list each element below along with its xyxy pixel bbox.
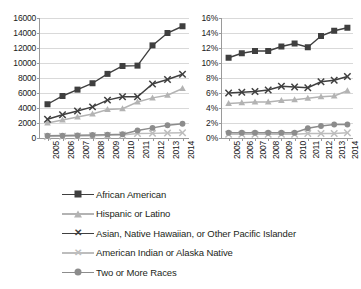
data-point [45, 133, 51, 139]
data-point [239, 50, 245, 56]
y-axis-tick [219, 138, 222, 139]
y-axis-tick-label: 10000 [13, 59, 36, 68]
data-point [318, 33, 324, 39]
data-point [179, 85, 186, 91]
y-axis-tick-label: 14% [202, 29, 218, 38]
y-axis-tick-label: 12000 [13, 44, 36, 53]
chart-legend: African AmericanHispanic or Latino✕Asian… [0, 186, 361, 289]
x-axis-tick-label: 2013 [171, 141, 181, 159]
y-axis-tick-label: 16% [202, 14, 218, 23]
y-axis-tick-label: 14000 [13, 29, 36, 38]
legend-marker-key [62, 188, 94, 200]
x-axis-labels-counts: 2005200620072008200920102011201220132014 [39, 141, 189, 183]
data-point [105, 71, 111, 77]
data-point [265, 130, 271, 136]
data-point [305, 125, 311, 131]
y-axis-tick [37, 138, 40, 139]
data-point [344, 87, 351, 93]
chart-panel-counts: 0200040006000800010000120001400016000 20… [0, 0, 196, 185]
x-axis-labels-percent: 2005200620072008200920102011201220132014 [221, 141, 353, 183]
x-axis-tick-label: 2010 [298, 141, 308, 159]
plot-area-percent [221, 18, 353, 138]
x-axis-tick-label: 2006 [66, 141, 76, 159]
circle-marker-icon [75, 269, 82, 276]
data-point [344, 25, 350, 31]
series-african-american [226, 25, 351, 61]
data-point [135, 128, 141, 134]
series-line [229, 77, 348, 94]
series-asian-native-hawaiian-or-other-pacific-islander [225, 73, 350, 96]
data-point [75, 132, 81, 138]
x-marker-icon: ✕ [74, 248, 82, 258]
data-point [120, 63, 126, 69]
legend-item[interactable]: ✕Asian, Native Hawaiian, or Other Pacifi… [62, 225, 296, 241]
x-axis-tick-label: 2011 [141, 141, 151, 158]
legend-marker-key: ✕ [62, 247, 94, 259]
x-axis-tick-label: 2005 [232, 141, 242, 159]
data-point [105, 132, 111, 138]
x-axis-tick-label: 2007 [81, 141, 91, 159]
y-axis-tick-label: 12% [202, 44, 218, 53]
data-point [165, 122, 171, 128]
data-point [90, 80, 96, 86]
x-axis-tick-label: 2008 [271, 141, 281, 159]
y-axis-tick-label: 6% [206, 89, 218, 98]
x-axis-tick-label: 2008 [96, 141, 106, 159]
legend-item-label: Hispanic or Latino [96, 208, 170, 219]
legend-marker-key [62, 208, 94, 220]
legend-item[interactable]: African American [62, 186, 166, 202]
series-line [229, 28, 348, 58]
x-axis-tick-label: 2009 [284, 141, 294, 159]
legend-item-label: American Indian or Alaska Native [96, 247, 233, 258]
legend-marker-key [62, 266, 94, 278]
y-axis-tick-label: 4% [206, 104, 218, 113]
data-point [331, 28, 337, 34]
y-axis-tick-label: 0% [206, 134, 218, 143]
x-axis-tick-label: 2009 [111, 141, 121, 159]
data-point [292, 41, 298, 47]
x-axis-tick-label: 2005 [51, 141, 61, 159]
x-marker-icon: ✕ [74, 228, 82, 238]
x-axis-tick-label: 2006 [245, 141, 255, 159]
legend-item[interactable]: Two or More Races [62, 264, 177, 280]
series-line [229, 125, 348, 133]
plot-area-counts [39, 18, 189, 138]
data-point [165, 30, 171, 36]
series-layer [222, 18, 354, 138]
x-axis-tick-label: 2013 [337, 141, 347, 159]
series-asian-native-hawaiian-or-other-pacific-islander [44, 71, 185, 122]
y-axis-labels-percent: 0%2%4%6%8%10%12%14%16% [192, 0, 218, 185]
series-hispanic-or-latino [44, 85, 186, 126]
data-point [120, 131, 126, 137]
legend-item-label: Asian, Native Hawaiian, or Other Pacific… [96, 228, 296, 239]
series-line [48, 124, 183, 136]
data-point [345, 122, 351, 128]
data-point [226, 130, 232, 136]
data-point [278, 44, 284, 50]
x-axis-tick-label: 2007 [258, 141, 268, 159]
y-axis-tick-label: 10% [202, 59, 218, 68]
legend-item-label: African American [96, 189, 166, 200]
y-axis-labels-counts: 0200040006000800010000120001400016000 [0, 0, 36, 185]
y-axis-tick-label: 2% [206, 119, 218, 128]
data-point [75, 87, 81, 93]
y-axis-tick-label: 8% [206, 74, 218, 83]
data-point [180, 23, 186, 29]
data-point [60, 93, 66, 99]
square-marker-icon [75, 191, 82, 198]
legend-item[interactable]: ✕American Indian or Alaska Native [62, 245, 233, 261]
data-point [265, 48, 271, 54]
data-point [45, 101, 51, 107]
legend-item-label: Two or More Races [96, 267, 177, 278]
data-point [239, 130, 245, 136]
x-axis-tick-label: 2014 [350, 141, 360, 159]
legend-item[interactable]: Hispanic or Latino [62, 206, 170, 222]
chart-panel-percent: 0%2%4%6%8%10%12%14%16% 20052006200720082… [192, 0, 361, 185]
data-point [180, 121, 186, 127]
x-axis-tick-label: 2012 [156, 141, 166, 159]
dual-line-chart-figure: 0200040006000800010000120001400016000 20… [0, 0, 361, 289]
data-point [305, 44, 311, 50]
x-axis-tick-label: 2010 [126, 141, 136, 159]
data-point [90, 132, 96, 138]
data-point [331, 122, 337, 128]
